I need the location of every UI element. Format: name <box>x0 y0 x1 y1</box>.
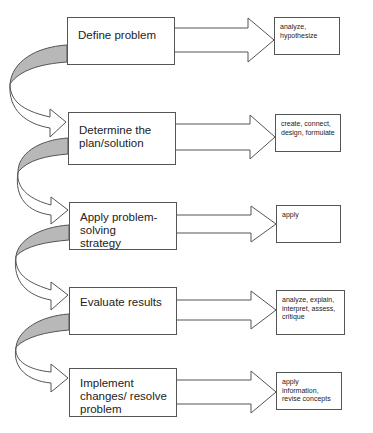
outcome-box-implement-changes: apply information, revise concepts <box>276 372 342 410</box>
curve-arrow-1 <box>10 45 67 84</box>
right-arrow-1 <box>175 18 274 62</box>
curve-arrow-4 <box>16 314 69 347</box>
outcome-box-define-problem: analyze, hypothesize <box>274 17 340 55</box>
step-box-define-problem: Define problem <box>67 17 175 65</box>
outcome-box-evaluate-results: analyze, explain, interpret, assess, cri… <box>276 290 345 335</box>
right-arrow-2 <box>176 115 275 159</box>
step-box-determine-plan: Determine the plan/solution <box>68 112 176 165</box>
right-arrow-3 <box>177 206 276 242</box>
step-box-evaluate-results: Evaluate results <box>69 287 177 335</box>
outcome-box-apply-strategy: apply <box>276 205 341 243</box>
curve-arrow-3 <box>16 225 69 256</box>
outcome-box-determine-plan: create, connect, design, formulate <box>275 114 341 152</box>
right-arrow-4 <box>177 291 276 329</box>
step-box-apply-strategy: Apply problem-solving strategy <box>69 202 177 250</box>
curve-arrow-2 <box>18 138 68 172</box>
step-box-implement-changes: Implement changes/ resolve problem <box>69 368 177 417</box>
right-arrow-5 <box>177 371 276 413</box>
